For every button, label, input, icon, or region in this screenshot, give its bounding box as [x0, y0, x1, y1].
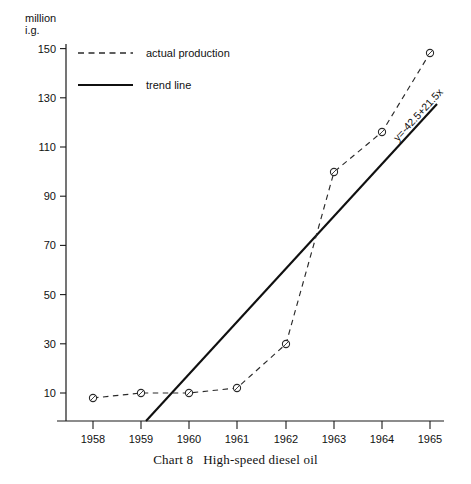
y-tick-label: 110 [38, 141, 56, 153]
x-tick-label: 1961 [225, 433, 249, 445]
y-tick-label: 30 [44, 338, 56, 350]
y-tick-label: 130 [38, 92, 56, 104]
chart-caption-label: Chart 8 [153, 452, 193, 467]
y-tick-label: 150 [38, 43, 56, 55]
x-axis-ticks: 1958 1959 1960 1961 1962 1963 1964 1965 [81, 421, 442, 445]
x-tick-label: 1964 [370, 433, 394, 445]
chart-container: million i.g. 150 130 110 90 70 50 30 10 [0, 0, 471, 484]
data-point-1963 [330, 168, 337, 175]
x-tick-label: 1960 [177, 433, 201, 445]
legend-label-trend-line: trend line [146, 79, 191, 91]
chart-plot-area: million i.g. 150 130 110 90 70 50 30 10 [0, 0, 471, 484]
data-point-1958 [89, 394, 96, 401]
x-tick-label: 1962 [274, 433, 298, 445]
x-tick-label: 1965 [418, 433, 442, 445]
data-point-1965 [426, 49, 433, 56]
series-actual-production [93, 53, 430, 398]
y-axis-unit-line1: million [25, 12, 56, 24]
y-tick-label: 70 [44, 239, 56, 251]
data-point-1961 [233, 384, 240, 391]
y-tick-label: 90 [44, 190, 56, 202]
data-point-markers [89, 49, 433, 401]
chart-legend: actual production trend line [78, 47, 230, 91]
data-point-1959 [137, 389, 144, 396]
y-tick-label: 10 [44, 387, 56, 399]
chart-caption: Chart 8High-speed diesel oil [0, 452, 471, 468]
x-tick-label: 1959 [129, 433, 153, 445]
chart-caption-title: High-speed diesel oil [203, 452, 318, 467]
data-point-1964 [378, 128, 385, 135]
x-tick-label: 1958 [81, 433, 105, 445]
y-axis-unit-line2: i.g. [25, 24, 40, 36]
y-tick-label: 50 [44, 289, 56, 301]
trend-equation-annotation: y=-42.5+21.5x [391, 85, 446, 143]
data-point-1962 [282, 340, 289, 347]
data-point-1960 [185, 389, 192, 396]
x-tick-label: 1963 [322, 433, 346, 445]
y-axis-ticks: 150 130 110 90 70 50 30 10 [38, 43, 66, 399]
series-trend-line [146, 104, 437, 421]
legend-label-actual-production: actual production [146, 47, 230, 59]
